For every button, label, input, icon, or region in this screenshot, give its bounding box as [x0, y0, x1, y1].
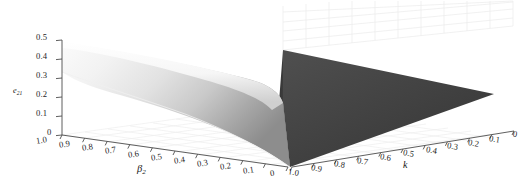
y-tick-label: 0.2 [467, 138, 479, 148]
y-tick-label: 1.0 [287, 167, 299, 177]
y-tick-label: 0.9 [310, 163, 322, 173]
y-tick-label: 0.8 [333, 159, 345, 169]
surface-light-face [62, 42, 290, 167]
x-tick-label: 0.1 [242, 165, 254, 175]
x-axis-label: β2 [137, 163, 146, 176]
x-tick-label: 1.0 [35, 135, 47, 145]
figure-3d-surface-plot: 0.5 0.4 0.3 0.2 0.1 0 1.0 0.9 0.8 0.7 0.… [0, 0, 521, 188]
y-tick-label: 0.4 [425, 145, 437, 155]
y-tick-label: 0.1 [488, 134, 500, 144]
x-tick-label: 0.6 [127, 149, 139, 159]
z-axis-label: e21 [13, 86, 22, 96]
z-tick-label: 0.1 [36, 109, 47, 118]
z-tick-label: 0 [47, 128, 51, 137]
z-tick-label: 0.4 [36, 52, 47, 61]
y-tick-label: 0.3 [446, 141, 458, 151]
x-axis-label-subscript: 2 [142, 168, 146, 176]
plot-canvas [0, 0, 521, 188]
z-tick-label: 0.3 [36, 71, 47, 80]
y-axis-label: k [403, 159, 407, 170]
y-tick-label: 0.5 [402, 148, 414, 158]
y-axis-label-base: k [403, 159, 407, 170]
z-axis-label-subscript: 21 [17, 90, 23, 96]
z-tick-label: 0.5 [36, 33, 47, 42]
x-tick-label: 0.2 [219, 161, 231, 171]
z-tick-label: 0.2 [36, 90, 47, 99]
y-tick-label: 0.7 [356, 156, 368, 166]
z-axis [56, 40, 62, 136]
x-tick-label: 0.8 [81, 142, 93, 152]
x-tick-label: 0.9 [58, 139, 70, 149]
x-tick-label: 0.4 [173, 155, 185, 165]
surface-dark-face [277, 50, 494, 167]
x-tick-label: 0.5 [150, 152, 162, 162]
y-tick-label: 0.6 [379, 152, 391, 162]
x-tick-label: 0.3 [196, 158, 208, 168]
x-tick-label: 0.7 [104, 145, 116, 155]
background-grid [283, 1, 513, 50]
